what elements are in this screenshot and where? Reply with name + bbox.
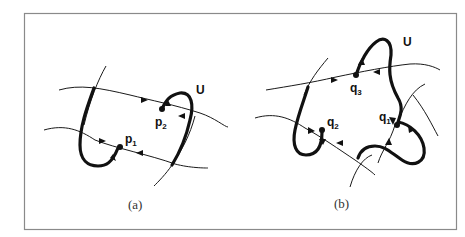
panel-a: p2 p1 U (a): [44, 66, 228, 212]
point-q1: [394, 122, 400, 128]
point-p1: [117, 144, 123, 150]
arrow-icon: [336, 140, 343, 146]
arrow-icon: [331, 77, 338, 83]
transversal-lower: [350, 155, 372, 187]
transversal-left: [84, 66, 106, 125]
point-q2: [319, 127, 325, 133]
caption-a: (a): [128, 197, 142, 212]
label-region-u: U: [403, 35, 412, 49]
label-q2: q2: [327, 115, 339, 131]
label-p1: p1: [125, 132, 137, 148]
label-region-u: U: [196, 83, 205, 97]
arrow-icon: [141, 97, 148, 103]
caption-b: (b): [334, 196, 349, 211]
arrow-icon: [136, 150, 143, 156]
arrow-icon: [385, 138, 392, 145]
label-p2: p2: [155, 115, 167, 131]
transversal-right-lower: [413, 95, 438, 136]
label-q1: q1: [379, 110, 391, 126]
point-q3: [353, 72, 359, 78]
region-u-boundary-left: [294, 87, 322, 155]
arrow-icon: [178, 113, 185, 119]
flow-line-middle: [255, 116, 375, 175]
point-p2: [159, 106, 165, 112]
panel-b: q3 q2 q1 U (b): [255, 35, 440, 211]
label-q3: q3: [350, 81, 362, 97]
transversal-right-upper: [398, 84, 425, 121]
figure: p2 p1 U (a) q3 q2 q1 U: [0, 0, 465, 237]
region-u-boundary-left: [80, 88, 118, 166]
